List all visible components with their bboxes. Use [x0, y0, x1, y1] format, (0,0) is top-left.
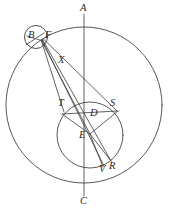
point-label-T: T	[58, 98, 64, 109]
point-label-D: D	[90, 108, 98, 119]
figure-canvas	[0, 0, 171, 217]
chord-f-r	[43, 40, 112, 162]
point-label-B: B	[28, 30, 34, 41]
point-label-S: S	[110, 98, 115, 109]
geometry-figure: A B F X T S D E V R C	[0, 0, 171, 217]
chord-f-s	[43, 39, 117, 112]
point-label-R: R	[109, 161, 115, 172]
point-label-E: E	[79, 130, 85, 141]
point-label-X: X	[58, 55, 64, 66]
point-label-F: F	[45, 30, 51, 41]
point-label-V: V	[99, 164, 105, 175]
point-label-A: A	[80, 3, 86, 14]
point-label-C: C	[80, 196, 87, 207]
radius-e-r	[90, 134, 111, 161]
chord-f-v	[42, 40, 104, 166]
